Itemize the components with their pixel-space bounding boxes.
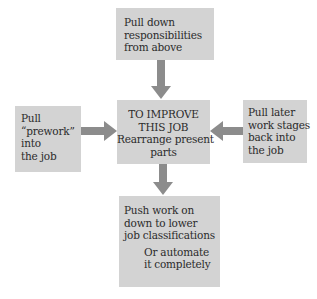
arrow-down-icon [153, 164, 173, 196]
box-text-line: the job [248, 144, 307, 157]
box-text-line: Rearrange present [117, 133, 210, 146]
box-pull-later-work-stages: Pull later work stages back into the job [243, 100, 307, 163]
box-pull-prework: Pull “prework” into the job [15, 106, 81, 172]
box-text-line: Push work on [124, 204, 220, 217]
arrow-left-icon [210, 121, 243, 141]
box-text-line: the job [21, 150, 81, 163]
box-title-line: TO IMPROVE [117, 108, 210, 121]
box-text-line: back into [248, 131, 307, 144]
box-alt-text-line: Or automate [124, 246, 220, 259]
box-improve-this-job: TO IMPROVE THIS JOB Rearrange present pa… [117, 100, 210, 164]
arrow-down-icon [151, 60, 171, 100]
box-text-line: job classifications [124, 229, 220, 242]
box-text-line: from above [124, 41, 214, 54]
box-pull-down-responsibilities: Pull down responsibilities from above [116, 8, 214, 60]
box-text-line: into [21, 137, 81, 150]
box-push-work-down: Push work on down to lower job classific… [119, 196, 220, 287]
box-text-line: work stages [248, 119, 307, 132]
arrow-right-icon [81, 121, 117, 141]
box-text-line: responsibilities [124, 29, 214, 42]
box-title-line: THIS JOB [117, 121, 210, 134]
box-alt-text-line: it completely [124, 258, 220, 271]
box-text-line: “prework” [21, 125, 81, 138]
box-text-line: Pull later [248, 106, 307, 119]
box-text-line: parts [117, 146, 210, 159]
box-text-line: Pull [21, 112, 81, 125]
box-text-line: Pull down [124, 16, 214, 29]
box-text-line: down to lower [124, 217, 220, 230]
